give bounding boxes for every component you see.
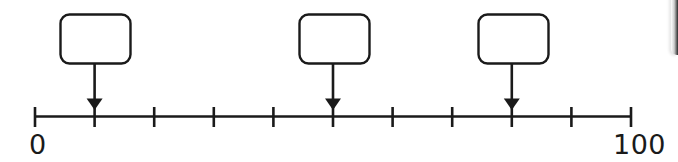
answer-box-3[interactable] [479,15,549,64]
answer-box-group-1[interactable] [61,15,131,111]
worksheet-canvas: 0 100 [0,0,678,162]
axis-label-end: 100 [613,131,666,158]
answer-box-group-3[interactable] [479,15,549,111]
answer-box-2[interactable] [300,15,370,64]
arrow-head-1 [87,99,103,111]
answer-box-1[interactable] [61,15,131,64]
arrow-head-2 [325,99,341,111]
number-line-figure [0,0,678,162]
axis-label-start: 0 [29,131,47,158]
page-edge-artifact [671,0,678,55]
answer-box-group-2[interactable] [300,15,370,111]
arrow-head-3 [504,99,520,111]
number-line-svg [0,0,678,162]
